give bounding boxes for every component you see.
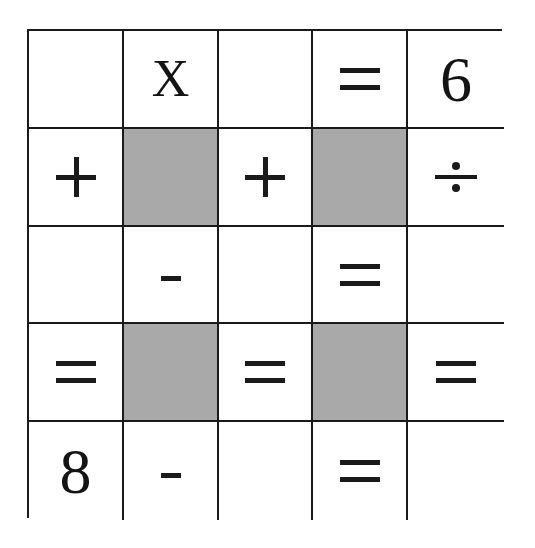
equals-icon bbox=[436, 361, 476, 383]
cell-r1-c5: 6 bbox=[408, 31, 504, 129]
cell-r5-c2 bbox=[124, 422, 219, 520]
equals-icon bbox=[245, 361, 285, 383]
equals-icon bbox=[340, 264, 380, 286]
cell-r2-c1 bbox=[29, 129, 124, 227]
cell-r5-c4 bbox=[313, 422, 408, 520]
cell-r5-c1: 8 bbox=[29, 422, 124, 520]
equals-icon bbox=[56, 361, 96, 383]
answer-cell-r3-c5[interactable] bbox=[408, 227, 504, 324]
cell-r4-c3 bbox=[219, 324, 313, 422]
cell-r2-c2 bbox=[124, 129, 219, 227]
given-number: 8 bbox=[60, 440, 92, 504]
cell-r4-c2 bbox=[124, 324, 219, 422]
given-number: 6 bbox=[440, 48, 472, 112]
cell-r4-c1 bbox=[29, 324, 124, 422]
cell-r1-c4 bbox=[313, 31, 408, 129]
answer-cell-r3-c3[interactable] bbox=[219, 227, 313, 324]
cell-r3-c2 bbox=[124, 227, 219, 324]
answer-cell-r5-c5[interactable] bbox=[408, 422, 504, 520]
cell-r2-c4 bbox=[313, 129, 408, 227]
cell-r2-c5 bbox=[408, 129, 504, 227]
cell-r2-c3 bbox=[219, 129, 313, 227]
divide-icon bbox=[435, 162, 477, 192]
cell-r4-c4 bbox=[313, 324, 408, 422]
math-puzzle-grid: X68 bbox=[27, 29, 502, 518]
cell-r4-c5 bbox=[408, 324, 504, 422]
cell-r1-c2: X bbox=[124, 31, 219, 129]
minus-icon bbox=[161, 473, 181, 478]
plus-icon bbox=[245, 157, 285, 197]
answer-cell-r1-c3[interactable] bbox=[219, 31, 313, 129]
answer-cell-r5-c3[interactable] bbox=[219, 422, 313, 520]
cell-r3-c4 bbox=[313, 227, 408, 324]
equals-icon bbox=[340, 68, 380, 90]
plus-icon bbox=[56, 157, 96, 197]
equals-icon bbox=[340, 460, 380, 482]
multiply-sign: X bbox=[152, 53, 190, 105]
answer-cell-r1-c1[interactable] bbox=[29, 31, 124, 129]
minus-icon bbox=[161, 276, 181, 281]
answer-cell-r3-c1[interactable] bbox=[29, 227, 124, 324]
